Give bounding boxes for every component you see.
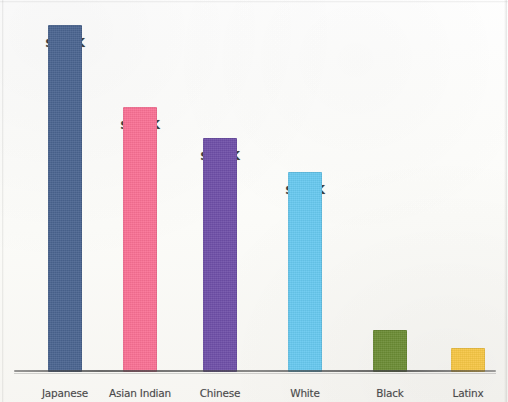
bar-label-chinese: Chinese bbox=[200, 387, 241, 399]
x-axis-baseline-shadow bbox=[14, 373, 496, 374]
bar-label-black: Black bbox=[376, 387, 403, 399]
bar-group-white: $355K White bbox=[288, 30, 322, 402]
bar-chart-figure: $592K Japanese $460K Asian Indian $408K … bbox=[0, 0, 508, 402]
bar-rect-asian-indian[interactable] bbox=[123, 107, 157, 372]
bar-rect-japanese[interactable] bbox=[48, 25, 82, 372]
bar-group-chinese: $408K Chinese bbox=[203, 30, 237, 402]
bar-rect-black[interactable] bbox=[373, 330, 407, 372]
x-axis-baseline bbox=[14, 370, 496, 372]
bar-rect-chinese[interactable] bbox=[203, 138, 237, 372]
bar-label-white: White bbox=[290, 387, 320, 399]
bar-rect-white[interactable] bbox=[288, 172, 322, 372]
bar-group-asian-indian: $460K Asian Indian bbox=[123, 30, 157, 402]
bar-group-japanese: $592K Japanese bbox=[48, 30, 82, 402]
bar-rect-latinx[interactable] bbox=[451, 348, 485, 372]
bar-label-asian-indian: Asian Indian bbox=[109, 387, 171, 399]
plot-area: $592K Japanese $460K Asian Indian $408K … bbox=[0, 0, 508, 402]
bar-group-latinx: $46K Latinx bbox=[451, 30, 485, 402]
bar-label-latinx: Latinx bbox=[453, 387, 484, 399]
bar-group-black: $76K Black bbox=[373, 30, 407, 402]
bar-label-japanese: Japanese bbox=[42, 387, 88, 399]
